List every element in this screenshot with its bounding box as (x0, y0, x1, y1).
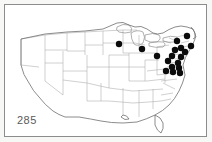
country-coastline (21, 22, 196, 133)
occurrence-dot (188, 43, 194, 49)
occurrence-dot (154, 53, 160, 59)
occurrence-dot (169, 53, 175, 59)
great-lakes-outline (116, 24, 177, 47)
map-frame: 285 (4, 4, 207, 137)
occurrence-dot (177, 70, 183, 76)
occurrence-dots-layer (116, 33, 194, 76)
occurrence-dot (165, 58, 171, 64)
occurrence-dot (170, 69, 176, 75)
occurrence-dot (116, 41, 122, 47)
occurrence-dot (139, 46, 145, 52)
figure-number-label: 285 (17, 115, 37, 126)
occurrence-dot (172, 47, 178, 53)
occurrence-dot (182, 49, 188, 55)
occurrence-dot (163, 68, 169, 74)
occurrence-dot (184, 33, 190, 39)
occurrence-dot (174, 38, 180, 44)
occurrence-dot (178, 54, 184, 60)
figure-container: 285 (0, 0, 212, 142)
